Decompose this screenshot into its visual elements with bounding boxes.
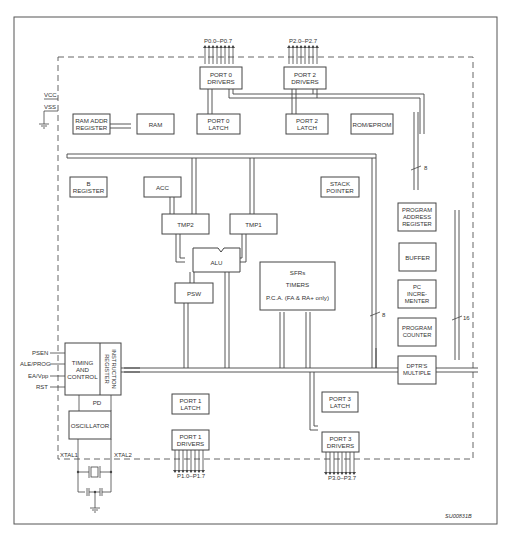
port3-drivers-box bbox=[322, 432, 359, 452]
program-address-register-box bbox=[398, 203, 436, 231]
acc-box bbox=[144, 177, 181, 197]
figure-id: SU00831B bbox=[445, 513, 472, 520]
timing-control-box bbox=[65, 343, 121, 395]
p2-pins-label: P2.0–P2.7 bbox=[289, 38, 317, 45]
vss-label: VSS bbox=[44, 104, 56, 111]
block-diagram-canvas bbox=[0, 0, 512, 541]
port2-drivers-box bbox=[284, 67, 326, 89]
port2-latch-box bbox=[286, 114, 328, 134]
p1-pin-arrows bbox=[175, 450, 203, 470]
p1-pins-label: P1.0–P1.7 bbox=[177, 473, 205, 480]
xtal1-label: XTAL1 bbox=[60, 452, 78, 459]
sfr-bus-width-label: 8 bbox=[382, 312, 385, 319]
rom-eprom-box bbox=[351, 114, 393, 134]
p2-pin-arrows bbox=[289, 48, 317, 64]
oscillator-box bbox=[69, 411, 111, 439]
psw-box bbox=[175, 283, 213, 303]
ea-vpp-pin-label: EA/Vpp bbox=[28, 373, 48, 380]
port0-drivers-box bbox=[200, 67, 242, 89]
p0-pins-label: P0.0–P0.7 bbox=[204, 38, 232, 45]
rst-pin-label: RST bbox=[36, 384, 48, 391]
alu-box bbox=[193, 248, 240, 272]
port0-latch-box bbox=[197, 114, 240, 134]
p3-pins-label: P3.0–P3.7 bbox=[328, 475, 356, 482]
tmp2-box bbox=[162, 214, 209, 234]
pc-bus-width-label: 16 bbox=[463, 315, 470, 322]
ram-addr-register-box bbox=[73, 114, 110, 134]
sfr-timers-pca-box bbox=[260, 262, 335, 310]
program-counter-box bbox=[398, 318, 436, 346]
port1-drivers-box bbox=[172, 430, 209, 450]
b-register-box bbox=[70, 177, 107, 197]
rom-bus-width-label: 8 bbox=[424, 165, 427, 172]
dptrs-multiple-box bbox=[398, 356, 436, 384]
ale-prog-pin-label: ALE/PROG bbox=[20, 361, 51, 368]
p3-pin-arrows bbox=[326, 452, 354, 472]
psen-pin-label: PSEN bbox=[32, 350, 48, 357]
port3-latch-box bbox=[322, 392, 358, 412]
port1-latch-box bbox=[172, 394, 209, 414]
xtal2-label: XTAL2 bbox=[114, 452, 132, 459]
stack-pointer-box bbox=[321, 177, 359, 197]
pc-incrementer-box bbox=[398, 280, 436, 308]
tmp1-box bbox=[230, 214, 277, 234]
p0-pin-arrows bbox=[205, 48, 233, 64]
vcc-label: VCC bbox=[44, 92, 57, 99]
buffer-box bbox=[399, 243, 436, 271]
upper-internal-bus bbox=[67, 154, 376, 158]
ram-box bbox=[137, 114, 174, 134]
